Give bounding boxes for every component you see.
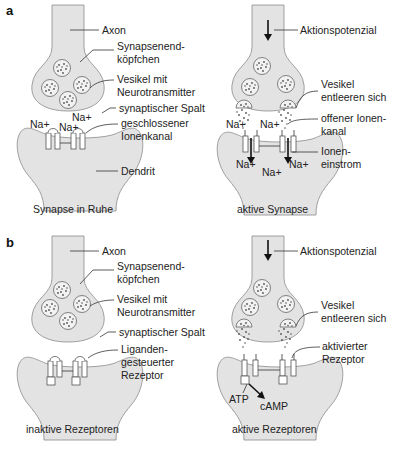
vesicle bbox=[60, 313, 77, 330]
label-axon: Axon bbox=[102, 245, 126, 257]
label-terminal: Synapsenend- bbox=[117, 40, 185, 52]
inactive-receptors: Axon Synapsenend- köpfchen Vesikel mit N… bbox=[17, 236, 205, 440]
panel-b: b Axon Synapsenend- köpfchen Vesikel mit… bbox=[6, 235, 387, 440]
label-vesicle: Neurotransmitter bbox=[117, 86, 196, 98]
caption-resting: Synapse in Ruhe bbox=[33, 203, 113, 215]
label-open-channel: kanal bbox=[321, 125, 346, 137]
ion-label: Na+ bbox=[236, 158, 256, 170]
atp-label: ATP bbox=[229, 393, 249, 405]
label-vesicle: Neurotransmitter bbox=[117, 306, 196, 318]
label-ligand-receptor: Liganden- bbox=[121, 343, 168, 355]
label-vesicle-empty: Vesikel bbox=[321, 78, 354, 90]
ion-label: Na+ bbox=[262, 166, 282, 178]
ion-label: Na+ bbox=[260, 118, 280, 130]
label-dendrite: Dendrit bbox=[121, 165, 155, 177]
label-cleft: synaptischer Spalt bbox=[119, 326, 205, 338]
vesicle bbox=[54, 60, 71, 77]
vesicle bbox=[242, 299, 259, 316]
vesicle bbox=[42, 80, 59, 97]
label-ion-influx: einstrom bbox=[321, 158, 362, 170]
vesicle bbox=[60, 92, 77, 109]
vesicle bbox=[254, 280, 271, 297]
ion-label: Na+ bbox=[289, 158, 309, 170]
label-ligand-receptor: gesteuerter bbox=[121, 356, 175, 368]
label-activated-receptor: Rezeptor bbox=[322, 353, 365, 365]
neurotransmitter-release bbox=[278, 109, 292, 129]
caption-inactive-receptors: inaktive Rezeptoren bbox=[26, 423, 119, 435]
label-activated-receptor: aktivierter bbox=[322, 340, 368, 352]
vesicle bbox=[74, 77, 91, 94]
vesicle bbox=[54, 282, 71, 299]
ion-label: Na+ bbox=[226, 118, 246, 130]
label-terminal: köpfchen bbox=[117, 273, 160, 285]
panel-label-a: a bbox=[6, 3, 14, 18]
label-open-channel: offener Ionen- bbox=[321, 112, 387, 124]
synapse-diagram: a Na+ Na+ Na+ Axon Synapsenend- köpfc bbox=[0, 0, 403, 452]
caption-active: aktive Synapse bbox=[237, 203, 308, 215]
caption-active-receptors: aktive Rezeptoren bbox=[232, 423, 317, 435]
label-closed-channel: Ionenkanal bbox=[121, 130, 172, 142]
label-cleft: synaptischer Spalt bbox=[119, 102, 205, 114]
label-action-potential: Aktionspotenzial bbox=[300, 245, 376, 257]
label-axon: Axon bbox=[102, 24, 126, 36]
label-closed-channel: geschlossener bbox=[121, 117, 189, 129]
ion-label: Na+ bbox=[72, 111, 92, 123]
active-receptors: ATP cAMP Aktionspotenzial Vesikel entlee… bbox=[217, 236, 386, 440]
label-vesicle: Vesikel mit bbox=[117, 73, 167, 85]
ion-label: Na+ bbox=[30, 118, 50, 130]
label-vesicle: Vesikel mit bbox=[117, 293, 167, 305]
panel-a: a Na+ Na+ Na+ Axon Synapsenend- köpfc bbox=[6, 3, 387, 215]
panel-label-b: b bbox=[6, 235, 14, 250]
vesicle bbox=[278, 76, 295, 93]
vesicle bbox=[278, 296, 295, 313]
label-terminal: Synapsenend- bbox=[117, 260, 185, 272]
vesicle bbox=[74, 296, 91, 313]
active-synapse: Na+ Na+ Na+ Na+ Na+ Aktionspotenzial Ves… bbox=[217, 5, 387, 215]
label-vesicle-empty: Vesikel bbox=[321, 299, 354, 311]
label-vesicle-empty: entleeren sich bbox=[321, 312, 387, 324]
label-action-potential: Aktionspotenzial bbox=[300, 24, 376, 36]
vesicle bbox=[42, 300, 59, 317]
label-ion-influx: Ionen- bbox=[321, 145, 351, 157]
label-vesicle-empty: entleeren sich bbox=[321, 91, 387, 103]
vesicle bbox=[242, 79, 259, 96]
label-terminal: köpfchen bbox=[117, 53, 160, 65]
label-ligand-receptor: Rezeptor bbox=[121, 369, 164, 381]
resting-synapse: Na+ Na+ Na+ Axon Synapsenend- köpfchen V… bbox=[17, 5, 205, 215]
vesicle bbox=[254, 58, 271, 75]
camp-label: cAMP bbox=[260, 400, 288, 412]
